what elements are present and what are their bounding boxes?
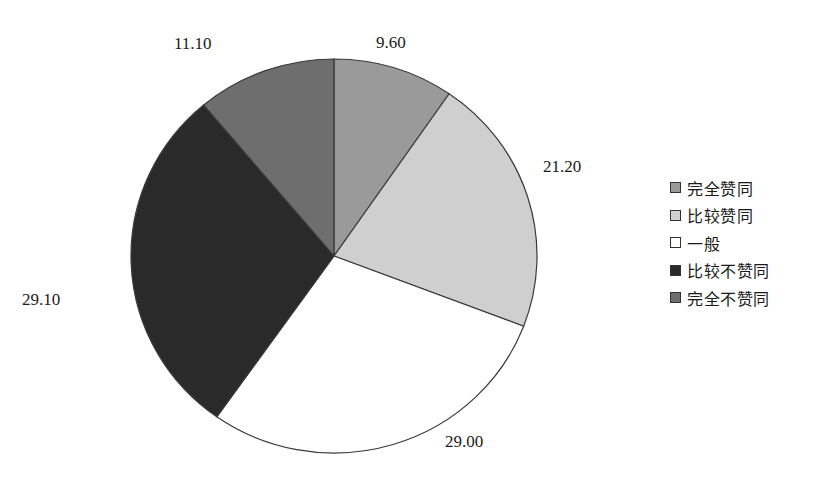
legend-swatch-icon <box>670 265 681 276</box>
legend-label: 一般 <box>687 231 720 255</box>
pie-slices <box>131 59 537 453</box>
data-label-somewhat-disagree: 29.10 <box>22 290 60 309</box>
legend-swatch-icon <box>670 237 681 248</box>
legend-label: 比较不赞同 <box>687 258 770 282</box>
legend-swatch-icon <box>670 182 681 193</box>
legend-label: 比较赞同 <box>687 203 753 227</box>
legend-swatch-icon <box>670 292 681 303</box>
legend-item-somewhat-agree: 比较赞同 <box>670 202 770 230</box>
legend-label: 完全赞同 <box>687 176 753 200</box>
legend-item-neutral: 一般 <box>670 229 770 257</box>
data-label-somewhat-agree: 21.20 <box>543 157 581 176</box>
legend-item-somewhat-disagree: 比较不赞同 <box>670 257 770 285</box>
data-label-neutral: 29.00 <box>445 432 483 451</box>
legend-swatch-icon <box>670 210 681 221</box>
legend-item-fully-agree: 完全赞同 <box>670 174 770 202</box>
legend-item-fully-disagree: 完全不赞同 <box>670 284 770 312</box>
legend-label: 完全不赞同 <box>687 286 770 310</box>
chart-legend: 完全赞同 比较赞同 一般 比较不赞同 完全不赞同 <box>670 174 770 312</box>
data-label-fully-agree: 9.60 <box>376 33 406 52</box>
data-label-fully-disagree: 11.10 <box>174 34 212 53</box>
